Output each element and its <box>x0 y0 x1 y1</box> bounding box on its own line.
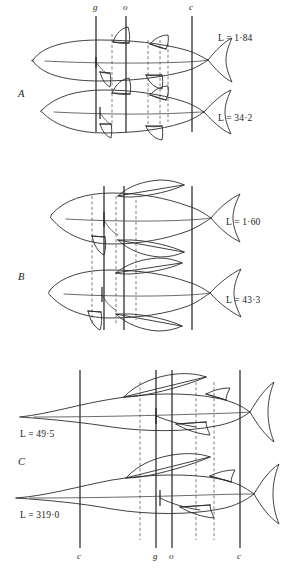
figure-root: g o c c g o c A B C L = 1·84 L = 34·2 L … <box>0 0 288 569</box>
panel-label-a: A <box>18 88 24 99</box>
axis-label-o-bottom: o <box>169 551 174 561</box>
panel-label-c: C <box>18 456 25 467</box>
panel-label-b: B <box>18 271 24 282</box>
axis-label-g-top: g <box>93 2 98 12</box>
length-label-a1: L = 1·84 <box>218 33 253 43</box>
fish-outline-b2 <box>49 258 242 331</box>
axis-label-c-bottom-left: c <box>77 551 81 561</box>
axis-label-o-top: o <box>123 2 128 12</box>
axis-label-c-top: c <box>189 2 193 12</box>
axis-label-g-bottom: g <box>153 551 158 561</box>
length-label-b1: L = 1·60 <box>226 217 261 227</box>
fish-outline-b1 <box>51 180 241 257</box>
axis-label-c-bottom-right: c <box>237 551 241 561</box>
panel-b-reference-lines <box>92 186 192 330</box>
fish-outline-c1 <box>20 374 274 442</box>
fish-outline-a1 <box>32 27 233 89</box>
fish-outline-a2 <box>41 78 232 140</box>
length-label-b2: L = 43·3 <box>226 295 261 305</box>
length-label-c2: L = 319·0 <box>20 510 60 520</box>
length-label-a2: L = 34·2 <box>218 113 253 123</box>
length-label-c1: L = 49·5 <box>20 429 55 439</box>
figure-canvas <box>0 0 288 569</box>
